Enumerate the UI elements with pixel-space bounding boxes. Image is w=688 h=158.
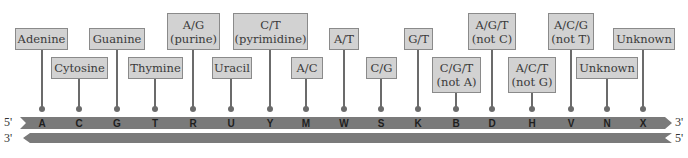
bottom-right-end-label: 5' [675,131,683,146]
nucleotide-code: G [107,118,127,129]
bottom-left-end-label: 3' [4,131,12,146]
connector-line [606,79,608,109]
connector-dot [568,106,574,112]
code-label-box: A/G(purine) [167,13,220,50]
connector-line [41,50,43,109]
code-label-text: A/G/T [476,18,509,32]
connector-dot [489,106,495,112]
connector-dot [114,106,120,112]
code-label-box: C/G/T(not A) [432,57,481,93]
code-label-box: Thymine [128,57,183,79]
code-label-text: Guanine [93,32,142,46]
code-label-text: A/C/T [516,61,549,75]
code-label-box: Unknown [613,28,675,50]
code-label-box: A/G/T(not C) [468,13,516,50]
connector-dot [529,106,535,112]
connector-line [570,50,572,109]
code-label-text: (pyrimidine) [235,32,307,46]
code-label-text: Unknown [579,61,635,75]
code-label-text: Unknown [616,32,672,46]
top-left-end-label: 5' [4,115,12,130]
code-label-box: C/G [366,57,397,79]
nucleotide-code: R [183,118,203,129]
connector-line [417,50,419,109]
code-label-box: Unknown [576,57,638,79]
connector-line [380,79,382,109]
code-label-text: C/G [371,61,393,75]
nucleotide-code: M [296,118,316,129]
connector-line [154,79,156,109]
code-label-box: A/C/G(not T) [548,13,594,50]
connector-dot [152,106,158,112]
nucleotide-code: V [561,118,581,129]
connector-dot [228,106,234,112]
code-label-text: Adenine [18,32,66,46]
connector-dot [341,106,347,112]
connector-dot [76,106,82,112]
code-label-box: C/T(pyrimidine) [233,13,308,50]
code-label-text: A/C/G [554,18,588,32]
code-label-text: (not T) [551,32,590,46]
connector-line [192,50,194,109]
code-label-text: A/C [297,61,318,75]
nucleotide-code: T [145,118,165,129]
nucleotide-code: U [221,118,241,129]
code-label-text: Uracil [214,61,250,75]
code-label-text: C/T [260,18,280,32]
connector-line [230,79,232,109]
nucleotide-code: N [597,118,617,129]
top-right-end-label: 3' [675,115,683,130]
code-label-text: G/T [408,32,429,46]
nucleotide-code: W [334,118,354,129]
connector-dot [39,106,45,112]
nucleotide-code: D [482,118,502,129]
code-label-box: A/C [291,57,323,79]
code-label-box: Adenine [15,28,68,50]
code-label-text: C/G/T [440,61,473,75]
connector-line [491,50,493,109]
connector-dot [267,106,273,112]
code-label-text: Thymine [130,61,180,75]
nucleotide-code: K [408,118,428,129]
nucleotide-code: S [371,118,391,129]
code-label-text: A/G [183,18,204,32]
code-label-box: Uracil [212,57,252,79]
code-label-box: A/C/T(not G) [508,57,556,93]
nucleotide-code: B [446,118,466,129]
nucleotide-code: C [69,118,89,129]
connector-line [269,50,271,109]
nucleotide-code: Y [260,118,280,129]
code-label-text: (not C) [472,32,512,46]
code-label-box: Cytosine [51,57,108,79]
code-label-box: Guanine [89,28,145,50]
connector-dot [453,106,459,112]
code-label-text: Cytosine [54,61,105,75]
code-label-text: (not A) [437,75,477,89]
connector-dot [303,106,309,112]
code-label-text: A/T [334,32,354,46]
connector-dot [640,106,646,112]
code-label-box: G/T [404,28,433,50]
nucleotide-code: X [633,118,653,129]
bottom-strand [23,133,672,143]
connector-line [116,50,118,109]
nucleotide-code: A [32,118,52,129]
connector-dot [378,106,384,112]
connector-line [642,50,644,109]
code-label-text: (not G) [512,75,553,89]
connector-dot [604,106,610,112]
code-label-box: A/T [329,28,359,50]
nucleotide-code: H [522,118,542,129]
connector-dot [415,106,421,112]
connector-line [343,50,345,109]
connector-line [305,79,307,109]
connector-dot [190,106,196,112]
code-label-text: (purine) [170,32,217,46]
connector-line [78,79,80,109]
